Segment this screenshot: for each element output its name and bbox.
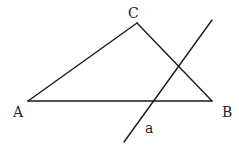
vertex-label-c: C — [128, 5, 139, 21]
line-label-a: a — [145, 120, 153, 136]
line-a — [124, 20, 212, 142]
vertex-label-b: B — [222, 104, 232, 120]
triangle-diagram: A B C a — [0, 0, 239, 152]
segment-ca — [28, 23, 137, 101]
vertex-label-a: A — [12, 104, 24, 120]
